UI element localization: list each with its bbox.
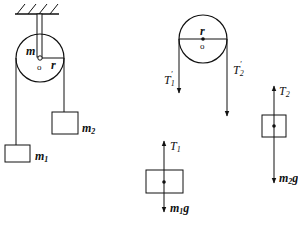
mass1-weight-label: m1g — [170, 201, 189, 216]
atwood-machine: m r o m1 m2 — [5, 4, 95, 164]
tension1-prime-label: T1′ — [164, 70, 175, 88]
mass1-label: m1 — [35, 149, 48, 164]
axle — [38, 56, 42, 60]
pulley-mass-label: m — [26, 44, 35, 58]
mass2-block — [52, 112, 78, 134]
tension2-prime-label: T2′ — [233, 60, 244, 78]
mass2-fbd: T2 m2g — [262, 84, 298, 186]
mass2-weight-label: m2g — [279, 171, 298, 186]
radius-label: r — [51, 58, 56, 72]
pulley-fbd: r o T1′ T2′ — [164, 15, 244, 116]
pulley-fbd-radius-label: r — [200, 24, 205, 38]
mass1-tension-label: T1 — [170, 139, 181, 154]
mass1-fbd-center-dot — [162, 180, 166, 184]
mass1-block — [5, 145, 30, 162]
mass1-fbd: T1 m1g — [146, 139, 189, 216]
ceiling — [15, 4, 59, 14]
mass2-fbd-center-dot — [272, 124, 276, 128]
support-rod — [37, 14, 42, 57]
center-label: o — [37, 62, 42, 72]
mass2-tension-label: T2 — [279, 84, 290, 99]
pulley-fbd-center-label: o — [200, 41, 205, 51]
mass2-label: m2 — [82, 121, 95, 136]
physics-diagram: m r o m1 m2 r o T1′ T2′ T1 m1g T2 — [0, 0, 298, 225]
